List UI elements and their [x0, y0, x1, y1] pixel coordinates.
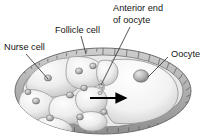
label-anterior-end-line1: Anterior end [113, 3, 163, 13]
label-oocyte: Oocyte [171, 49, 200, 59]
label-nurse-cell: Nurse cell [4, 42, 45, 52]
oocyte-nucleus [134, 70, 149, 82]
label-follicle-cell: Follicle cell [55, 25, 100, 35]
diagram-canvas: Nurse cell Follicle cell Anterior end of… [0, 0, 206, 140]
egg-chamber-figure: Nurse cell Follicle cell Anterior end of… [0, 0, 206, 140]
label-anterior-end-line2: of oocyte [113, 15, 150, 25]
